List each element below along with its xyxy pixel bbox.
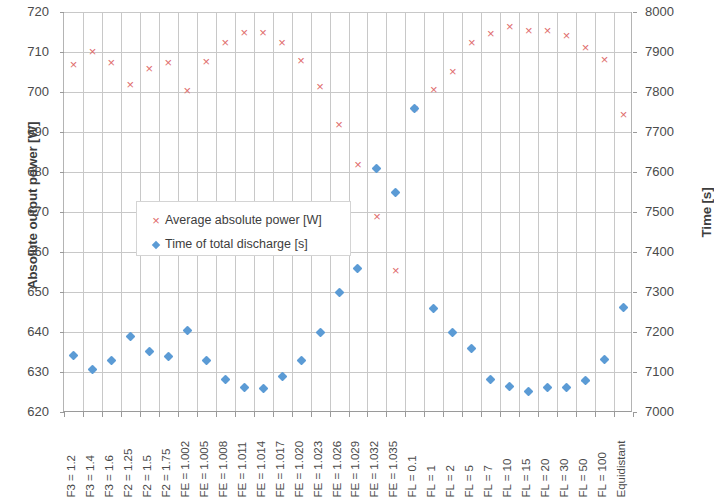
vertical-gridline (481, 12, 482, 411)
data-point-power (297, 56, 306, 65)
x-tick-label: FE = 1.032 (369, 440, 381, 497)
x-tick-label: FE = 1.005 (198, 440, 210, 497)
data-point-time (182, 325, 192, 335)
data-point-time (505, 382, 515, 392)
horizontal-gridline (64, 52, 631, 53)
x-tick-label: F3 = 1.2 (65, 454, 77, 497)
vertical-gridline (405, 12, 406, 411)
horizontal-gridline (64, 372, 631, 373)
y-tick-label-right: 8000 (645, 5, 691, 18)
chart-legend: × Average absolute power [W] Time of tot… (136, 201, 351, 256)
data-point-power (524, 26, 533, 35)
x-tick-label: Equidistant (616, 440, 628, 497)
x-tick-label: FL = 2 (445, 465, 457, 497)
x-tick-label: FL = 20 (540, 458, 552, 497)
y-tick-label-left: 640 (9, 325, 49, 338)
axis-tickmark (60, 52, 64, 53)
data-point-power (88, 47, 97, 56)
y-axis-title-right: Time [s] (699, 93, 714, 333)
data-point-power (69, 60, 78, 69)
axis-tickmark (633, 332, 637, 333)
data-point-power (183, 86, 192, 95)
legend-item-power: × Average absolute power [W] (147, 208, 342, 232)
vertical-gridline (367, 12, 368, 411)
data-point-power (391, 266, 400, 275)
data-point-power (581, 43, 590, 52)
vertical-gridline (538, 12, 539, 411)
legend-label-power: Average absolute power [W] (165, 213, 322, 227)
vertical-gridline (557, 12, 558, 411)
data-point-time (562, 382, 572, 392)
data-point-power (372, 212, 381, 221)
axis-tickmark (633, 12, 637, 13)
data-point-power (202, 57, 211, 66)
x-tick-label: FL = 100 (597, 452, 609, 497)
y-tick-label-left: 700 (9, 85, 49, 98)
data-point-power (448, 67, 457, 76)
horizontal-gridline (64, 332, 631, 333)
y-tick-label-left: 710 (9, 45, 49, 58)
data-point-time (448, 327, 458, 337)
x-tick-label: F3 = 1.4 (84, 454, 96, 497)
axis-tickmark (60, 92, 64, 93)
x-tick-label: FL = 10 (502, 458, 514, 497)
x-tick-label: FE = 1.023 (312, 440, 324, 497)
data-point-time (239, 382, 249, 392)
y-tick-label-right: 7600 (645, 165, 691, 178)
data-point-time (106, 356, 116, 366)
axis-tickmark (633, 92, 637, 93)
x-tick-label: FL = 0.1 (407, 455, 419, 497)
x-tick-label: FE = 1.014 (255, 440, 267, 497)
x-tick-label: FE = 1.029 (350, 440, 362, 497)
data-point-power (278, 38, 287, 47)
y-tick-label-left: 680 (9, 165, 49, 178)
data-point-power (353, 160, 362, 169)
vertical-gridline (462, 12, 463, 411)
data-point-power (486, 29, 495, 38)
axis-tickmark (60, 252, 64, 253)
y-tick-label-left: 650 (9, 285, 49, 298)
data-point-power (600, 55, 609, 64)
axis-tickmark (633, 252, 637, 253)
vertical-gridline (595, 12, 596, 411)
data-point-time (391, 187, 401, 197)
data-point-time (334, 287, 344, 297)
data-point-time (163, 352, 173, 362)
vertical-gridline (519, 12, 520, 411)
x-tick-label: FE = 1.017 (274, 440, 286, 497)
horizontal-gridline (64, 12, 631, 13)
axis-tickmark (60, 292, 64, 293)
horizontal-gridline (64, 92, 631, 93)
y-tick-label-right: 7800 (645, 85, 691, 98)
vertical-gridline (576, 12, 577, 411)
data-point-power (107, 58, 116, 67)
y-tick-label-left: 630 (9, 365, 49, 378)
x-tick-label: FL = 30 (559, 458, 571, 497)
x-marker-icon: × (147, 213, 165, 228)
data-point-time (543, 383, 553, 393)
data-point-time (258, 384, 268, 394)
horizontal-gridline (64, 172, 631, 173)
axis-tickmark (60, 172, 64, 173)
axis-tickmark (60, 132, 64, 133)
data-point-time (69, 350, 79, 360)
x-tick-label: FE = 1.035 (388, 440, 400, 497)
y-tick-label-left: 620 (9, 405, 49, 418)
axis-tickmark (633, 132, 637, 133)
data-point-time (220, 375, 230, 385)
x-tick-label: F2 = 1.5 (141, 454, 153, 497)
x-axis-category-labels: F3 = 1.2F3 = 1.4F3 = 1.6F2 = 1.25F2 = 1.… (63, 417, 632, 497)
data-point-power (429, 85, 438, 94)
x-tick-label: FL = 7 (483, 465, 495, 497)
data-point-power (562, 31, 571, 40)
x-tick-label: FE = 1.008 (217, 440, 229, 497)
x-tick-label: F3 = 1.6 (103, 454, 115, 497)
axis-tickmark (633, 52, 637, 53)
axis-tickmark (60, 212, 64, 213)
x-tick-label: FL = 5 (464, 465, 476, 497)
axis-tickmark (60, 12, 64, 13)
x-tick-label: FE = 1.026 (331, 440, 343, 497)
data-point-time (600, 354, 610, 364)
horizontal-gridline (64, 292, 631, 293)
x-tick-label: FE = 1.011 (236, 441, 248, 497)
